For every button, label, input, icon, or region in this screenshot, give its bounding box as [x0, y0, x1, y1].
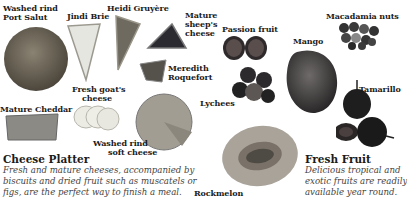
description-line: available year round. [305, 187, 407, 198]
lychees-image [230, 66, 276, 106]
label-line: cheese [72, 94, 122, 103]
label-mature-cheddar: Mature Cheddar [0, 105, 72, 114]
label-meredith-roquefort: Meredith Roquefort [168, 64, 212, 82]
description-line: exotic fruits are readily [305, 176, 407, 187]
fresh-fruit-heading: Fresh Fruit [305, 153, 371, 165]
cheese-platter-heading: Cheese Platter [3, 153, 89, 165]
label-heidi-gruyere: Heidi Gruyère [107, 4, 169, 13]
mature-cheddar-image [4, 112, 60, 142]
label-port-salut: Washed rind Port Salut [3, 4, 58, 22]
fresh-fruit-description: Delicious tropical and exotic fruits are… [305, 165, 407, 198]
label-line: soft cheese [93, 148, 157, 157]
jindi-brie-image [66, 22, 104, 82]
label-line: cheese [185, 29, 217, 38]
label-rockmelon: Rockmelon [194, 189, 243, 198]
label-washed-rind-soft-cheese: Washed rind soft cheese [93, 139, 157, 157]
description-line: biscuits and dried fruit such as muscate… [3, 176, 197, 187]
description-line: Fresh and mature cheeses, accompanied by [3, 165, 197, 176]
label-passion-fruit: Passion fruit [222, 25, 278, 34]
description-line: Delicious tropical and [305, 165, 407, 176]
rockmelon-image [220, 124, 302, 188]
label-tamarillo: Tamarillo [359, 85, 401, 94]
port-salut-cheese-image [3, 26, 69, 92]
label-jindi-brie: Jindi Brie [67, 12, 109, 21]
label-mango: Mango [293, 37, 323, 46]
cheese-platter-description: Fresh and mature cheeses, accompanied by… [3, 165, 197, 198]
label-line: Roquefort [168, 73, 212, 82]
mango-image [283, 48, 341, 116]
macadamia-nuts-image [338, 22, 380, 50]
label-fresh-goats-cheese: Fresh goat's cheese [72, 85, 122, 103]
label-mature-sheeps-cheese: Mature sheep's cheese [185, 11, 217, 38]
description-line: figs, are the perfect way to finish a me… [3, 187, 197, 198]
fresh-goats-cheese-image [72, 102, 120, 132]
label-lychees: Lychees [200, 99, 235, 108]
label-line: Port Salut [3, 13, 58, 22]
meredith-roquefort-image [138, 58, 168, 84]
mature-sheeps-cheese-image [146, 22, 188, 52]
passion-fruit-image [222, 34, 268, 62]
label-macadamia-nuts: Macadamia nuts [326, 12, 399, 21]
